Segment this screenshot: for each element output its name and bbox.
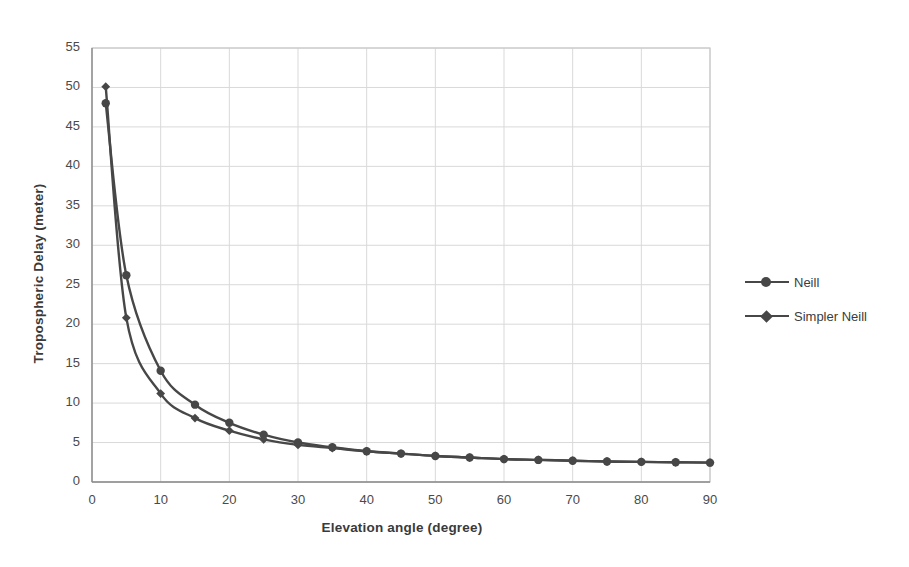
x-tick-70: 70 <box>553 492 593 507</box>
legend-key-circle-icon <box>745 275 789 289</box>
y-tick-50: 50 <box>40 78 80 93</box>
legend-key-diamond-icon <box>745 309 789 323</box>
y-tick-40: 40 <box>40 157 80 172</box>
y-tick-10: 10 <box>40 394 80 409</box>
chart-legend: Neill Simpler Neill <box>745 265 905 333</box>
series-simpler-neill <box>101 82 714 467</box>
chart-figure: Tropospheric Delay (meter) Elevation ang… <box>0 0 909 567</box>
x-tick-20: 20 <box>209 492 249 507</box>
x-tick-0: 0 <box>72 492 112 507</box>
legend-label-simpler-neill: Simpler Neill <box>794 309 867 324</box>
series-neill <box>102 99 715 467</box>
y-tick-45: 45 <box>40 118 80 133</box>
x-tick-50: 50 <box>415 492 455 507</box>
y-tick-0: 0 <box>40 473 80 488</box>
x-tick-80: 80 <box>621 492 661 507</box>
x-tick-10: 10 <box>141 492 181 507</box>
legend-item-simpler-neill[interactable]: Simpler Neill <box>745 299 905 333</box>
y-tick-15: 15 <box>40 355 80 370</box>
gridlines <box>92 48 710 482</box>
y-tick-55: 55 <box>40 39 80 54</box>
x-tick-90: 90 <box>690 492 730 507</box>
legend-item-neill[interactable]: Neill <box>745 265 905 299</box>
x-tick-60: 60 <box>484 492 524 507</box>
y-tick-35: 35 <box>40 197 80 212</box>
x-tick-40: 40 <box>347 492 387 507</box>
plot-frame <box>92 48 710 482</box>
y-tick-25: 25 <box>40 276 80 291</box>
y-tick-20: 20 <box>40 315 80 330</box>
y-tick-5: 5 <box>40 434 80 449</box>
x-tick-30: 30 <box>278 492 318 507</box>
x-axis-title: Elevation angle (degree) <box>205 520 599 535</box>
legend-label-neill: Neill <box>794 275 819 290</box>
y-tick-30: 30 <box>40 236 80 251</box>
